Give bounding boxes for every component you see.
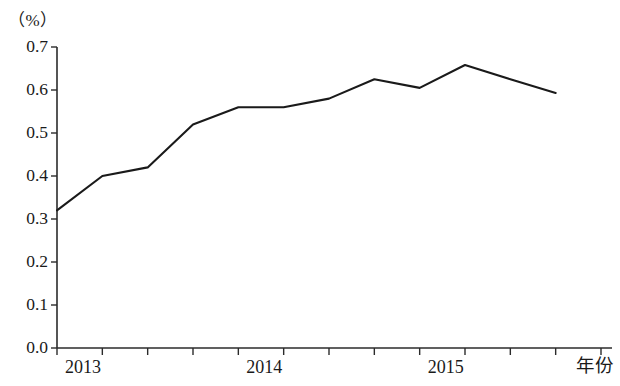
chart-canvas — [0, 0, 620, 386]
y-axis-tick-label: 0.6 — [0, 81, 48, 99]
data-series-line — [57, 65, 556, 210]
y-axis-tick-label: 0.1 — [0, 296, 48, 314]
y-axis-tick-label: 0.2 — [0, 253, 48, 271]
axes-group — [51, 47, 612, 355]
line-chart: （%） 0.00.10.20.30.40.50.60.7 20132014201… — [0, 0, 620, 386]
y-axis-tick-label: 0.3 — [0, 210, 48, 228]
y-axis-tick-label: 0.5 — [0, 124, 48, 142]
x-axis-tick-label: 2014 — [246, 358, 282, 376]
x-axis-tick-label: 2015 — [428, 358, 464, 376]
x-axis-tick-label: 2013 — [65, 358, 101, 376]
x-axis-ticks — [57, 348, 601, 355]
x-axis-title: 年份 — [576, 357, 614, 376]
y-axis-tick-label: 0.4 — [0, 167, 48, 185]
y-axis-tick-label: 0.0 — [0, 339, 48, 357]
y-axis-tick-label: 0.7 — [0, 38, 48, 56]
y-axis-ticks — [51, 47, 57, 348]
